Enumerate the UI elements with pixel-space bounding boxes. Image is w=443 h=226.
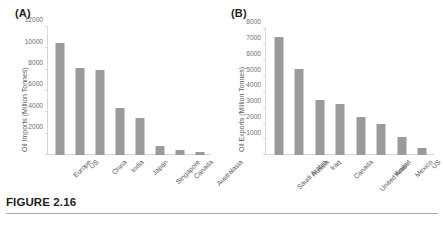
bar [155,146,164,155]
bar-slot [90,27,110,155]
bar [135,118,144,155]
x-tick-label: Russia [311,159,331,179]
bar-slot [190,27,210,155]
figure-2-16: (A) Oil Imports (Million Tonnes) 2000400… [0,0,443,226]
bar [56,43,65,155]
x-tick-label: Kuwait [393,159,412,178]
x-tick-label: China [111,159,128,176]
bar-series-a [48,27,211,155]
figure-caption: FIGURE 2.16 [6,196,76,208]
bar-slot [170,27,190,155]
y-axis-title-a: Oil Imports (Million Tonnes) [21,67,28,152]
y-tick-label: 7000 [246,35,261,42]
bar [96,70,105,155]
bar-slot [412,29,432,155]
panel-b-label: (B) [231,7,247,19]
bar [377,124,386,156]
bar [195,152,204,155]
x-tick-label: Japan [151,159,169,177]
y-tick-label: 12000 [25,17,43,24]
bar [116,108,125,155]
bar [76,68,85,155]
x-tick-label: US [89,159,100,170]
bar-slot [391,29,411,155]
bar-slot [351,29,371,155]
bar-slot [150,27,170,155]
bar [418,148,427,155]
y-tick-label: 2000 [28,124,43,131]
plot-area-b: 10002000300040005000600070008000 Saudi A… [265,29,434,155]
bar [336,104,345,155]
bar-slot [50,27,70,155]
y-tick-label: 10000 [25,38,43,45]
bar [274,37,283,155]
bar [315,100,324,155]
y-tick-label: 6000 [246,51,261,58]
bar-slot [130,27,150,155]
bar-slot [70,27,90,155]
y-tick-label: 5000 [246,66,261,73]
x-tick-label: Canada [353,159,375,181]
y-tick-label: 8000 [246,19,261,26]
y-tick-label: 6000 [28,81,43,88]
bar [356,117,365,155]
bar [397,137,406,155]
x-tick-label: Iraq [329,159,342,172]
bar [175,150,184,155]
y-tick-label: 4000 [246,82,261,89]
y-tick-label: 2000 [246,114,261,121]
chart-panel-a: (A) Oil Imports (Million Tonnes) 2000400… [0,0,222,190]
bar-slot [310,29,330,155]
y-tick-label: 4000 [28,102,43,109]
bar-slot [110,27,130,155]
y-tick-label: 1000 [246,129,261,136]
y-tick-label: 3000 [246,98,261,105]
caption-divider [6,213,438,214]
chart-panel-b: (B) Oil Exports (Million Tonnes) 1000200… [218,0,443,190]
bar-slot [330,29,350,155]
y-axis-title-b: Oil Exports (Million Tonnes) [238,67,245,152]
y-tick-label: 8000 [28,60,43,67]
bar [295,69,304,155]
bar-slot [289,29,309,155]
plot-area-a: 20004000600080001000012000 EuropeUSChina… [47,27,211,155]
bar-slot [371,29,391,155]
x-tick-label: US [431,159,442,170]
bar-series-b [266,29,434,155]
bar-slot [269,29,289,155]
x-tick-label: India [130,159,145,174]
